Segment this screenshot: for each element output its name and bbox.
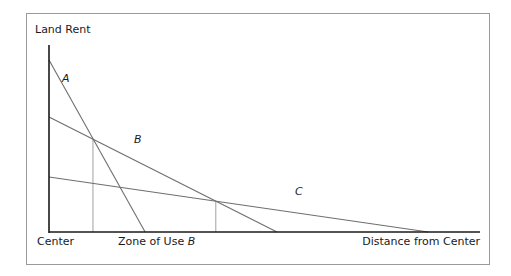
- zone-label-text: Zone of Use: [118, 235, 188, 248]
- rent-line-c: [49, 177, 428, 232]
- zone-label: Zone of Use B: [118, 235, 195, 248]
- x-axis-label: Distance from Center: [362, 235, 480, 248]
- rent-line-b: [49, 117, 277, 232]
- y-axis-label: Land Rent: [35, 23, 91, 36]
- series-label-c: C: [295, 185, 303, 198]
- series-label-a: A: [61, 72, 70, 85]
- zone-label-italic: B: [188, 235, 196, 248]
- bid-rent-chart: Land Rent Distance from Center Center Zo…: [0, 0, 511, 276]
- series-label-b: B: [134, 133, 142, 146]
- origin-label: Center: [37, 235, 75, 248]
- rent-line-a: [49, 60, 145, 232]
